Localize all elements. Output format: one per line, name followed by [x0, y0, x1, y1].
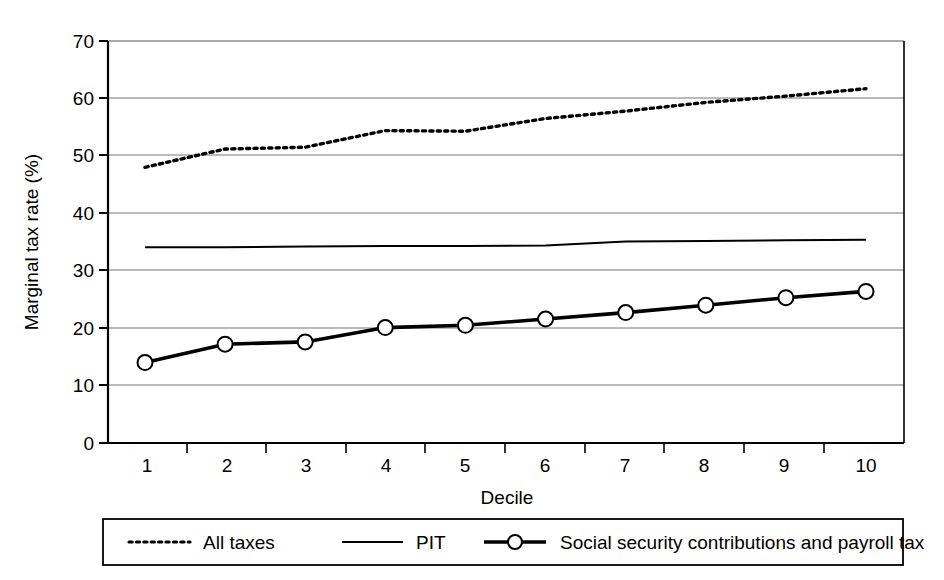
data-point-marker — [458, 318, 473, 333]
x-tick-label-4: 4 — [381, 455, 392, 476]
data-point-marker — [378, 320, 393, 335]
gridlines — [108, 41, 904, 385]
data-point-marker — [298, 334, 313, 349]
y-tick-label-70: 70 — [73, 31, 94, 52]
x-tick-label-7: 7 — [620, 455, 631, 476]
social-security-markers — [138, 284, 874, 370]
series-all-taxes — [145, 89, 866, 168]
x-tick-label-9: 9 — [779, 455, 790, 476]
y-tick-label-50: 50 — [73, 145, 94, 166]
chart-page: 70 60 50 40 30 20 10 0 1 2 3 4 5 — [0, 0, 944, 580]
x-axis-ticks — [187, 443, 824, 453]
y-axis-ticks — [99, 41, 108, 443]
data-point-marker — [138, 355, 153, 370]
y-axis-tick-labels: 70 60 50 40 30 20 10 0 — [73, 31, 94, 454]
legend-label-social-security: Social security contributions and payrol… — [560, 532, 925, 553]
x-tick-label-10: 10 — [855, 455, 876, 476]
x-tick-label-6: 6 — [540, 455, 551, 476]
x-tick-label-3: 3 — [301, 455, 312, 476]
social-security-line — [145, 291, 866, 362]
series-social-security — [138, 284, 874, 370]
circle-marker-icon — [508, 535, 522, 549]
y-axis-title: Marginal tax rate (%) — [21, 154, 42, 330]
y-tick-label-40: 40 — [73, 203, 94, 224]
x-axis-title: Decile — [481, 487, 534, 508]
x-tick-label-5: 5 — [460, 455, 471, 476]
series-pit — [145, 240, 866, 248]
legend: All taxes PIT Social security contributi… — [103, 519, 925, 565]
legend-label-pit: PIT — [416, 532, 446, 553]
data-point-marker — [859, 284, 874, 299]
pit-line — [145, 240, 866, 248]
data-point-marker — [218, 337, 233, 352]
x-tick-label-1: 1 — [142, 455, 153, 476]
y-tick-label-20: 20 — [73, 318, 94, 339]
all-taxes-line — [145, 89, 866, 168]
x-tick-label-2: 2 — [222, 455, 233, 476]
data-point-marker — [698, 298, 713, 313]
data-point-marker — [778, 290, 793, 305]
legend-label-all-taxes: All taxes — [203, 532, 275, 553]
y-tick-label-60: 60 — [73, 88, 94, 109]
plot-frame — [108, 41, 904, 443]
y-tick-label-10: 10 — [73, 375, 94, 396]
y-tick-label-0: 0 — [83, 433, 94, 454]
x-axis-tick-labels: 1 2 3 4 5 6 7 8 9 10 — [142, 455, 877, 476]
data-point-marker — [538, 312, 553, 327]
marginal-tax-rate-line-chart: 70 60 50 40 30 20 10 0 1 2 3 4 5 — [0, 0, 944, 580]
data-point-marker — [618, 305, 633, 320]
x-tick-label-8: 8 — [699, 455, 710, 476]
y-tick-label-30: 30 — [73, 260, 94, 281]
